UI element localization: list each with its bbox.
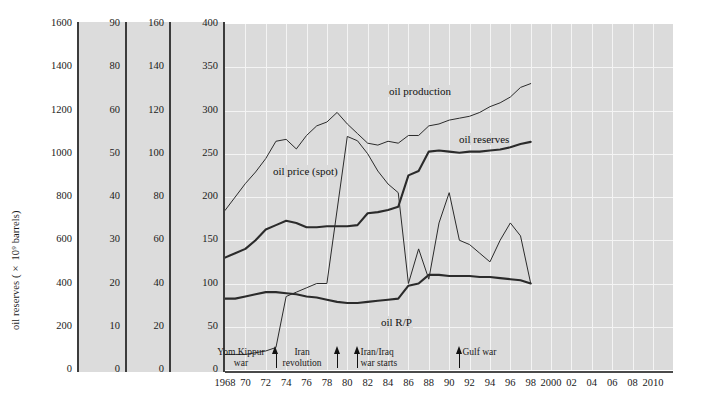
y-tick-label: 1200 (51, 105, 72, 115)
series-line-oil-r-p (225, 275, 531, 303)
y-tick-label: 350 (202, 61, 218, 71)
y-tick-label: 100 (202, 278, 218, 288)
x-axis-line (225, 371, 673, 373)
y-tick-label: 250 (202, 148, 218, 158)
y-tick-label: 80 (110, 61, 121, 71)
y-tick-label: 120 (148, 105, 164, 115)
y-tick-label: 600 (56, 234, 72, 244)
y-tick-label: 0 (115, 364, 120, 374)
y-tick-label: 60 (110, 105, 121, 115)
plot-area (225, 24, 673, 370)
y-tick-label: 200 (56, 321, 72, 331)
axis-bar-2 (125, 22, 127, 372)
y-tick-label: 20 (154, 321, 165, 331)
axis-bar-3 (169, 22, 171, 372)
series-label-price: oil price (spot) (272, 165, 339, 177)
y-tick-label: 0 (159, 364, 164, 374)
y-axis-title-reserves: oil reserves (× 10⁹ barrels) (10, 100, 21, 330)
series-label-reserves: oil reserves (458, 133, 510, 145)
annotation-stem (337, 354, 338, 368)
series-label-rp: oil R/P (380, 316, 413, 328)
y-tick-label: 100 (148, 148, 164, 158)
annotation-arrow (354, 346, 360, 354)
x-tick-label: 2010 (635, 377, 671, 388)
y-tick-label: 30 (110, 234, 121, 244)
y-tick-label: 40 (154, 278, 165, 288)
data-curves (225, 24, 673, 370)
y-tick-label: 0 (67, 364, 72, 374)
y-tick-label: 800 (56, 191, 72, 201)
y-tick-label: 400 (202, 18, 218, 28)
annotation-label: Iran/Iraqwar starts (360, 347, 397, 368)
y-tick-label: 90 (110, 18, 121, 28)
y-tick-label: 1600 (51, 18, 72, 28)
series-line-oil-reserves (225, 142, 531, 258)
y-tick-label: 20 (110, 278, 121, 288)
y-tick-label: 160 (148, 18, 164, 28)
y-tick-label: 300 (202, 105, 218, 115)
y-tick-label: 50 (110, 148, 121, 158)
annotation-label: Gulf war (462, 347, 496, 358)
y-tick-label: 150 (202, 234, 218, 244)
series-label-production: oil production (388, 85, 452, 97)
y-tick-label: 1400 (51, 61, 72, 71)
y-tick-label: 200 (202, 191, 218, 201)
y-tick-label: 1000 (51, 148, 72, 158)
series-line-oil-price-spot- (225, 136, 531, 354)
series-line-oil-production (225, 84, 531, 211)
annotation-stem (357, 354, 358, 368)
axis-bar-1 (77, 22, 79, 372)
y-tick-label: 80 (154, 191, 165, 201)
annotation-stem (459, 354, 460, 368)
annotation-label: Iranrevolution (267, 347, 337, 368)
y-tick-label: 60 (154, 234, 165, 244)
annotation-arrow (456, 346, 462, 354)
y-tick-label: 10 (110, 321, 121, 331)
y-tick-label: 50 (208, 321, 219, 331)
y-tick-label: 400 (56, 278, 72, 288)
y-tick-label: 140 (148, 61, 164, 71)
annotation-label: Yom Kippurwar (206, 347, 276, 368)
chart-figure: oil reserves (× 10⁹ barrels) oil product… (0, 0, 701, 417)
y-tick-label: 40 (110, 191, 121, 201)
